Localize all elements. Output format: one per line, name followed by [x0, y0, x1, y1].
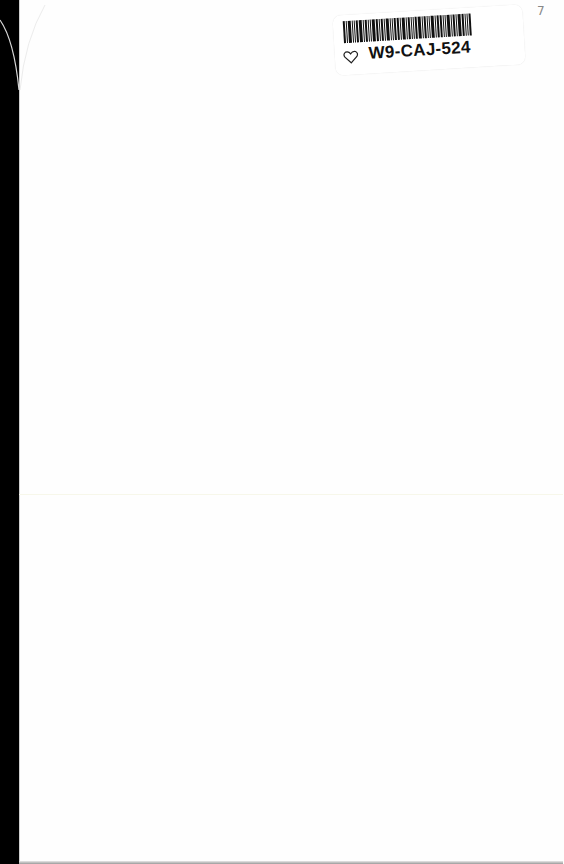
sticker-code: W9-CAJ-524	[368, 37, 471, 63]
corner-handwritten-mark: 7	[537, 4, 545, 18]
scanned-page	[19, 0, 564, 864]
barcode	[343, 11, 504, 43]
heart-outline-icon	[342, 48, 359, 65]
barcode-sticker: W9-CAJ-524	[332, 4, 525, 75]
fold-line	[19, 494, 563, 495]
